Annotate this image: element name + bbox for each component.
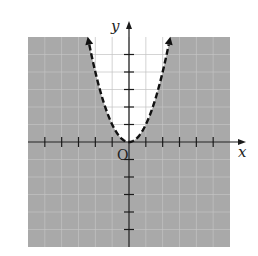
inequality-graph: y x O [0, 0, 258, 256]
x-axis-label: x [238, 143, 247, 161]
y-axis-label: y [110, 17, 120, 35]
y-axis-arrow-icon [126, 21, 132, 29]
origin-label: O [117, 147, 128, 163]
